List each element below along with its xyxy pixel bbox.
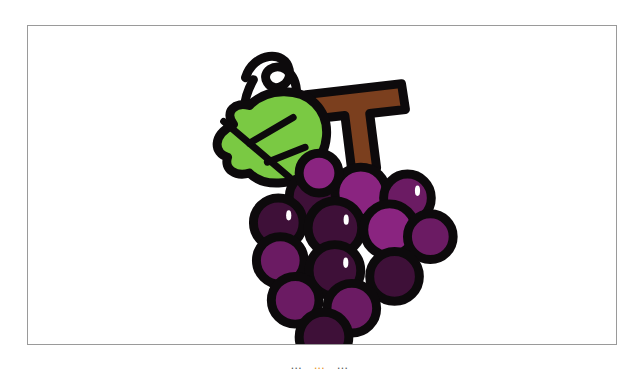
grape-highlight <box>343 258 348 268</box>
caption-line: ......... <box>0 366 639 373</box>
caption-segment-right: ... <box>337 366 348 372</box>
caption-strip: ......... <box>0 366 639 373</box>
grape-berry <box>299 153 339 193</box>
artwork-container <box>28 26 616 344</box>
grape-berry <box>299 312 349 344</box>
screenshot-canvas: ......... <box>0 0 639 373</box>
grape-highlight <box>286 210 291 220</box>
grape-highlight <box>344 215 349 225</box>
grape-berry <box>407 214 453 260</box>
caption-segment-left: ... <box>291 366 302 372</box>
grape-highlight <box>415 186 420 196</box>
caption-segment-accent[interactable]: ... <box>314 366 325 372</box>
grapes-illustration <box>28 26 616 344</box>
image-card[interactable] <box>27 25 617 345</box>
